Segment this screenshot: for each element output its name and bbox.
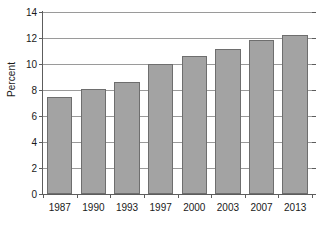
y-tick-mark-right-4	[312, 142, 316, 143]
y-tick-label: 4	[31, 137, 37, 148]
x-tick-mark	[144, 194, 145, 198]
y-tick-mark-10	[39, 64, 43, 65]
x-tick-mark	[178, 194, 179, 198]
bar-2013	[282, 35, 307, 194]
x-tick-mark	[278, 194, 279, 198]
x-tick-mark	[211, 194, 212, 198]
bar-1997	[148, 64, 173, 194]
y-tick-mark-right-12	[312, 38, 316, 39]
bar-1993	[114, 82, 139, 194]
bar-2007	[249, 40, 274, 194]
x-tick-mark	[110, 194, 111, 198]
bar-2003	[215, 49, 240, 194]
y-tick-label: 8	[31, 85, 37, 96]
y-tick-label: 6	[31, 111, 37, 122]
x-tick-label-2003: 2003	[217, 202, 239, 213]
y-tick-label: 10	[26, 59, 37, 70]
x-tick-mark	[77, 194, 78, 198]
x-tick-label-2000: 2000	[183, 202, 205, 213]
y-tick-mark-right-10	[312, 64, 316, 65]
y-tick-label: 14	[26, 7, 37, 18]
bar-2000	[182, 56, 207, 194]
y-tick-label: 0	[31, 189, 37, 200]
x-tick-mark	[245, 194, 246, 198]
bar-1990	[81, 89, 106, 194]
bar-chart-figure: Percent 02468101214 19871990199319972000…	[0, 0, 323, 226]
y-tick-mark-8	[39, 90, 43, 91]
y-tick-mark-14	[39, 12, 43, 13]
gridline-12	[43, 38, 312, 39]
x-tick-mark	[43, 194, 44, 198]
x-tick-label-1997: 1997	[150, 202, 172, 213]
plot-area: 02468101214 1987199019931997200020032007…	[43, 12, 312, 194]
y-tick-mark-2	[39, 168, 43, 169]
y-tick-mark-right-14	[312, 12, 316, 13]
y-tick-mark-right-6	[312, 116, 316, 117]
x-tick-label-1987: 1987	[49, 202, 71, 213]
x-tick-label-2007: 2007	[250, 202, 272, 213]
x-tick-label-1993: 1993	[116, 202, 138, 213]
y-tick-label: 2	[31, 163, 37, 174]
y-tick-mark-4	[39, 142, 43, 143]
y-axis-title: Percent	[6, 43, 17, 117]
y-tick-mark-right-8	[312, 90, 316, 91]
x-tick-label-2013: 2013	[284, 202, 306, 213]
y-tick-label: 12	[26, 33, 37, 44]
x-tick-label-1990: 1990	[82, 202, 104, 213]
y-tick-mark-right-2	[312, 168, 316, 169]
y-tick-mark-6	[39, 116, 43, 117]
bar-1987	[47, 97, 72, 195]
y-tick-mark-12	[39, 38, 43, 39]
gridline-14	[43, 12, 312, 13]
x-tick-mark	[312, 194, 313, 198]
